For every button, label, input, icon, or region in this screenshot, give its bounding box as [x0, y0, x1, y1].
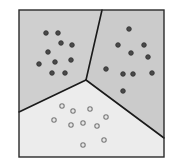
filled-point	[116, 43, 121, 48]
filled-point	[37, 62, 42, 67]
partition-diagram	[0, 0, 173, 165]
filled-point	[129, 51, 134, 56]
hollow-point	[60, 104, 64, 108]
hollow-point	[69, 123, 73, 127]
filled-point	[59, 41, 64, 46]
hollow-point	[81, 143, 85, 147]
hollow-point	[102, 138, 106, 142]
filled-point	[150, 71, 155, 76]
filled-point	[121, 72, 126, 77]
filled-point	[56, 31, 61, 36]
filled-point	[44, 31, 49, 36]
filled-point	[131, 72, 136, 77]
filled-point	[146, 55, 151, 60]
filled-point	[127, 27, 132, 32]
filled-point	[53, 60, 58, 65]
filled-point	[121, 89, 126, 94]
filled-point	[50, 71, 55, 76]
hollow-point	[95, 124, 99, 128]
hollow-point	[71, 109, 75, 113]
filled-point	[104, 67, 109, 72]
hollow-point	[81, 121, 85, 125]
hollow-point	[52, 118, 56, 122]
filled-point	[46, 50, 51, 55]
filled-point	[69, 58, 74, 63]
filled-point	[142, 43, 147, 48]
hollow-point	[88, 107, 92, 111]
hollow-point	[104, 115, 108, 119]
filled-point	[70, 43, 75, 48]
filled-point	[63, 71, 68, 76]
